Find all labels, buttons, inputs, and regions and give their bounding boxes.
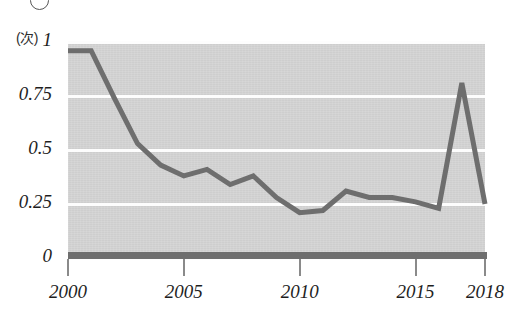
- x-tick-label: 2005: [165, 281, 203, 303]
- y-tick-label: 0.5: [28, 137, 52, 159]
- y-tick-label: 0.25: [19, 191, 52, 213]
- y-tick-label: 0.75: [19, 83, 52, 105]
- x-tick-label: 2010: [281, 281, 319, 303]
- x-tick-mark: [183, 259, 185, 276]
- plot-area: [68, 42, 485, 258]
- x-tick-label: 2018: [466, 281, 504, 303]
- series-line-chart: [68, 42, 485, 258]
- x-tick-label: 2015: [397, 281, 435, 303]
- x-axis-line: [68, 252, 487, 259]
- x-tick-label: 2000: [49, 281, 87, 303]
- x-tick-mark: [484, 259, 486, 276]
- x-tick-mark: [415, 259, 417, 276]
- header-text-row: [30, 0, 56, 13]
- y-tick-label: 1: [43, 29, 53, 51]
- chart-figure: (次) 00.250.50.751 20002005201020152018: [0, 0, 515, 331]
- series-polyline: [68, 51, 485, 213]
- cropped-header-strip: [0, 0, 515, 13]
- y-axis-tick-labels: 00.250.50.751: [0, 42, 60, 258]
- x-tick-mark: [299, 259, 301, 276]
- x-tick-mark: [67, 259, 69, 276]
- y-tick-label: 0: [43, 245, 53, 267]
- circle-icon: [30, 0, 49, 10]
